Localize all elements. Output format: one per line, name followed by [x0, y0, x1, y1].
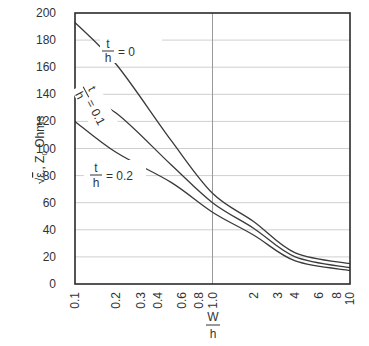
x-tick-label: 4: [288, 292, 302, 299]
x-tick-label: 1.0: [206, 292, 220, 309]
svg-text:√εr, Z0 Ohms: √εr, Z0 Ohms: [33, 116, 49, 184]
y-tick-label: 20: [43, 250, 57, 264]
y-tick-label: 160: [36, 60, 56, 74]
impedance-chart: 020406080100120140160180200 0.10.20.30.4…: [0, 0, 369, 346]
svg-text:W: W: [207, 310, 219, 324]
y-tick-label: 0: [49, 277, 56, 291]
svg-text:h: h: [93, 176, 100, 190]
svg-text:h: h: [210, 327, 217, 341]
y-axis-label: √εr, Z0 Ohms: [33, 116, 49, 184]
y-tick-label: 60: [43, 196, 57, 210]
series-label-t02: t h = 0.2: [84, 160, 146, 190]
x-tick-label: 10: [343, 292, 357, 306]
x-tick-label: 8: [330, 292, 344, 299]
series-label-t01: t h = 0.1: [70, 78, 119, 137]
x-tick-label: 0.6: [175, 292, 189, 309]
x-tick-label: 6: [312, 292, 326, 299]
svg-text:h: h: [105, 51, 112, 65]
x-tick-label: 3: [271, 292, 285, 299]
y-tick-label: 140: [36, 87, 56, 101]
x-tick-label: 0.8: [192, 292, 206, 309]
x-tick-label: 0.2: [109, 292, 123, 309]
x-tick-label: 2: [247, 292, 261, 299]
x-axis-label: W h: [206, 310, 220, 341]
x-tick-label: 0.4: [151, 292, 165, 309]
svg-text:= 0: = 0: [118, 45, 135, 59]
y-tick-label: 200: [36, 6, 56, 20]
x-tick-label: 0.3: [134, 292, 148, 309]
series-label-t0: t h = 0: [100, 35, 162, 65]
svg-text:= 0.2: = 0.2: [106, 169, 133, 183]
x-tick-label: 0.1: [68, 292, 82, 309]
x-axis-ticks: 0.10.20.30.40.60.81.02346810: [68, 292, 357, 309]
y-tick-label: 40: [43, 223, 57, 237]
y-tick-label: 180: [36, 33, 56, 47]
